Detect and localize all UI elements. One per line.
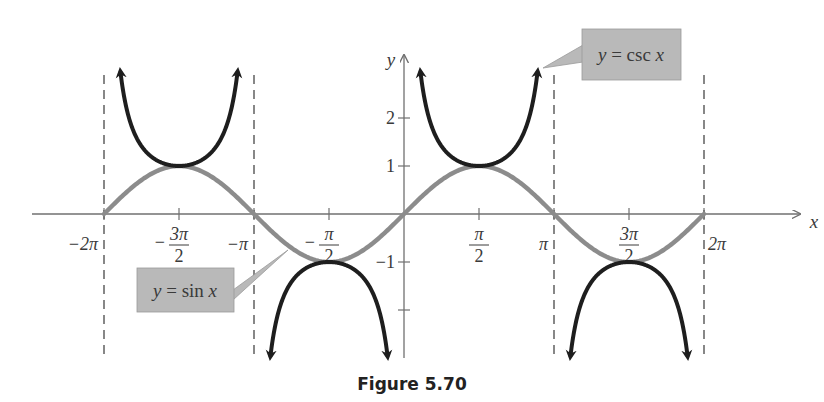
svg-text:1: 1 [386,156,395,176]
x-tick: π2 [469,208,489,266]
x-tick: −2π [68,208,104,254]
svg-text:2: 2 [174,246,183,266]
svg-text:2: 2 [386,108,395,128]
y-axis-label: y [385,49,396,70]
x-axis-ticks: −2π−3π2−π−π2π2π3π22π [68,208,727,266]
svg-text:π: π [324,224,334,244]
csc-branch [479,72,537,166]
y-tick: −1 [376,252,410,272]
svg-text:−2π: −2π [68,234,99,254]
x-tick: −π [227,208,254,254]
sin-callout: y = sin x [137,250,288,312]
csc-branch [179,72,237,166]
svg-text:π: π [474,224,484,244]
x-tick: −3π2 [155,208,189,266]
sin-callout-label: y = sin x [151,280,218,301]
y-tick: 1 [386,156,410,176]
csc-callout: y = csc x [543,29,681,80]
sin-callout-pointer [233,250,288,300]
svg-text:−: − [155,232,165,252]
figure-caption: Figure 5.70 [357,374,467,394]
svg-text:3π: 3π [169,224,189,244]
chart-canvas: x y −2π−3π2−π−π2π2π3π22π 21−1 y = csc x … [0,0,824,402]
svg-text:−π: −π [227,234,249,254]
x-tick: 2π [704,208,727,254]
y-axis: y [385,49,404,358]
csc-branch [121,72,179,166]
svg-text:−: − [305,232,315,252]
csc-branch [329,262,387,356]
x-tick: 3π2 [619,208,639,266]
csc-branch [421,72,479,166]
csc-callout-label: y = csc x [596,44,665,65]
svg-text:3π: 3π [619,224,639,244]
svg-text:2: 2 [475,246,484,266]
csc-branch [571,262,629,356]
y-tick: 2 [386,108,410,128]
csc-branch [629,262,687,356]
csc-callout-pointer [543,45,583,68]
csc-branch [271,262,329,356]
svg-text:2π: 2π [708,234,727,254]
svg-text:π: π [539,234,549,254]
y-axis-ticks: 21−1 [376,108,410,310]
x-axis-label: x [809,211,819,232]
svg-text:−1: −1 [376,252,395,272]
